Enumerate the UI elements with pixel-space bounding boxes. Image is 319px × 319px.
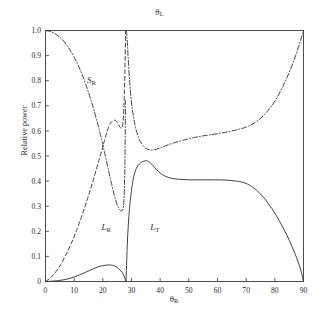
y-tick-label: 0	[37, 277, 41, 286]
y-tick-label: 0.7	[32, 101, 42, 110]
x-axis-label-subscript: R	[174, 297, 178, 304]
y-tick-label: 0.5	[32, 152, 42, 161]
y-axis-label: Relative power	[20, 61, 29, 201]
y-tick-label: 0.9	[32, 51, 42, 60]
y-tick-label: 0.1	[32, 252, 42, 261]
curve-segment	[46, 31, 126, 211]
curve-label-l-t: LT	[149, 222, 159, 233]
curve-label-l-r: LR	[100, 222, 111, 233]
y-tick-label: 0.4	[32, 177, 42, 186]
curve-segment	[46, 31, 126, 282]
y-tick-label: 0.6	[32, 127, 42, 136]
y-tick-label: 1.0	[32, 26, 42, 35]
y-tick-label: 0.2	[32, 227, 42, 236]
chart-figure: θL 010203040506070809000.10.20.30.40.50.…	[0, 0, 319, 319]
y-tick-label: 0.3	[32, 202, 42, 211]
series-l-r	[46, 31, 126, 282]
plot-frame	[46, 31, 304, 282]
series-l-t	[46, 161, 304, 282]
x-axis-label: θR	[45, 294, 303, 304]
curve-segment	[46, 265, 126, 282]
plot-area: 010203040506070809000.10.20.30.40.50.60.…	[0, 0, 319, 319]
curve-segment	[126, 31, 303, 151]
series-s-r	[46, 31, 304, 211]
y-tick-label: 0.8	[32, 76, 42, 85]
curve-label-s-r: SR	[87, 75, 97, 86]
